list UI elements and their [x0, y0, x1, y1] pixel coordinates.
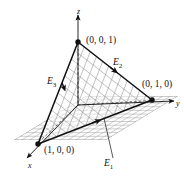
z-axis-label: z [77, 8, 80, 16]
simplex-figure: z y x (0, 0, 1) (0, 1, 0) (1, 0, 0) E3 E… [0, 0, 184, 178]
edge-label-E3-sub: 3 [53, 81, 57, 89]
edge-label-E1-sub: 1 [110, 163, 114, 171]
vertex-label-100: (1, 0, 0) [44, 146, 74, 156]
edge-label-E2-sub: 2 [119, 62, 123, 70]
vertex-dot-100 [35, 141, 40, 146]
y-axis-label: y [176, 100, 180, 108]
vertex-dot-010 [149, 97, 154, 102]
vertex-label-001: (0, 0, 1) [86, 36, 116, 46]
edge-label-E1: E1 [104, 159, 113, 171]
edge-label-E3: E3 [47, 77, 56, 89]
vertex-label-010: (0, 1, 0) [142, 80, 172, 90]
vertex-dot-001 [75, 39, 80, 44]
edge-label-E2: E2 [113, 58, 122, 70]
x-axis-label: x [28, 162, 32, 170]
